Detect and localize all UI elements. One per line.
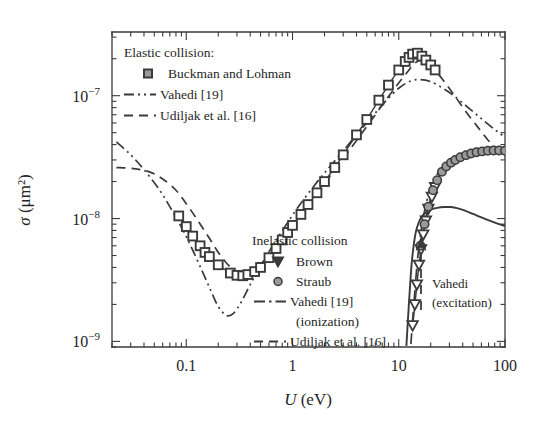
square-marker — [431, 66, 440, 75]
x-axis-title: U (eV) — [284, 390, 332, 409]
square-marker — [174, 212, 183, 221]
circle-marker — [433, 176, 441, 184]
square-marker — [339, 150, 348, 159]
x-tick-label: 0.1 — [176, 357, 196, 374]
square-marker — [320, 177, 329, 186]
legend-label: Udiljak et al. [16] — [160, 108, 256, 123]
circle-marker — [429, 186, 437, 194]
x-tick-label: 10 — [391, 357, 407, 374]
square-marker — [304, 200, 313, 209]
square-marker — [205, 252, 214, 261]
square-marker — [384, 81, 393, 90]
legend-label: Vahedi [19] — [160, 87, 223, 102]
circle-marker — [420, 220, 428, 228]
x-tick-label: 100 — [493, 357, 517, 374]
legend-label: Straub — [296, 274, 331, 289]
square-marker — [265, 253, 274, 262]
annotation-line-2: (excitation) — [432, 295, 492, 310]
svg-text:σ (μm²): σ (μm²) — [15, 174, 34, 225]
square-marker — [297, 210, 306, 219]
square-marker — [144, 70, 152, 78]
x-tick-label: 1 — [289, 357, 297, 374]
legend-label: Brown — [296, 254, 333, 269]
annotation-line-1: Vahedi — [432, 276, 468, 291]
square-marker — [394, 66, 403, 75]
square-marker — [313, 188, 322, 197]
legend-label: Vahedi [19] — [290, 294, 353, 309]
svg-text:U (eV): U (eV) — [284, 390, 332, 409]
square-marker — [374, 96, 383, 105]
legend-label: Buckman and Lohman — [168, 66, 291, 81]
legend-label: (ionization) — [296, 314, 359, 329]
square-marker — [362, 115, 371, 124]
legend-label: Udiljak et al. [16] — [290, 334, 386, 349]
square-marker — [188, 232, 197, 241]
square-marker — [330, 163, 339, 172]
legend-title: Inelastic collision — [252, 233, 348, 248]
figure-container: 0.1110100 10−910−810−7 U (eV) σ (μm²) El… — [0, 0, 542, 425]
square-marker — [182, 222, 191, 231]
cross-section-chart: 0.1110100 10−910−810−7 U (eV) σ (μm²) El… — [0, 0, 542, 425]
square-marker — [352, 130, 361, 139]
circle-marker — [424, 202, 432, 210]
y-axis-title: σ (μm²) — [15, 174, 34, 225]
legend-title: Elastic collision: — [124, 45, 214, 60]
circle-marker — [274, 278, 282, 286]
square-marker — [214, 260, 223, 269]
square-marker — [256, 263, 265, 272]
square-marker — [288, 221, 297, 230]
